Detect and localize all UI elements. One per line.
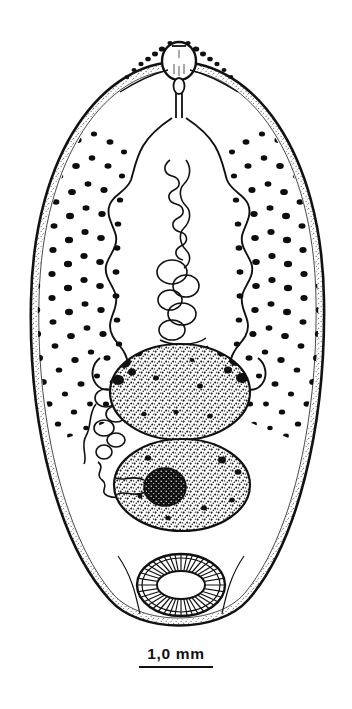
acetabulum-aperture xyxy=(157,571,205,599)
testis-anterior xyxy=(110,344,250,440)
testis-posterior xyxy=(114,439,250,531)
pharynx xyxy=(174,78,185,94)
trematode-illustration xyxy=(0,0,352,709)
ovary xyxy=(144,468,186,506)
figure-plate: 1,0 mm xyxy=(0,0,352,709)
